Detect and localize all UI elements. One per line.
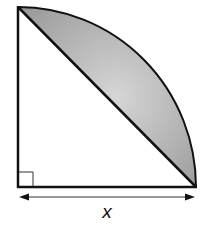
arrowhead-right-icon: [185, 194, 195, 201]
dimension-arrow: [19, 194, 195, 201]
arrowhead-left-icon: [19, 194, 29, 201]
base-length-label: x: [101, 201, 113, 222]
right-angle-marker: [19, 172, 33, 186]
quarter-circle-diagram: x: [0, 0, 206, 229]
